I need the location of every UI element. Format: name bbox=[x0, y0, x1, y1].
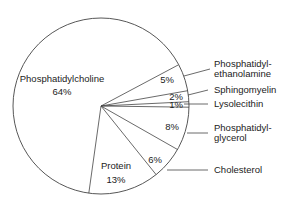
pct-phosphatidylglycerol: 8% bbox=[165, 121, 179, 132]
pct-phosphatidylcholine: 64% bbox=[52, 86, 72, 97]
pie-chart: Phosphatidylcholine 64% 5% 2% 1% 8% 6% P… bbox=[0, 0, 288, 209]
pct-phosphatidylethanolamine: 5% bbox=[160, 74, 174, 85]
pct-lysolecithin: 1% bbox=[169, 99, 183, 110]
callout-line-sm bbox=[188, 90, 208, 95]
pct-protein: 13% bbox=[106, 174, 126, 185]
label-protein: Protein bbox=[101, 160, 131, 171]
callout-line-pe bbox=[184, 69, 210, 76]
pct-cholesterol: 6% bbox=[148, 154, 162, 165]
label-pe-line2: ethanolamine bbox=[214, 68, 271, 79]
label-cholesterol: Cholesterol bbox=[214, 164, 262, 175]
label-sphingomyelin: Sphingomyelin bbox=[214, 84, 276, 95]
label-phosphatidylcholine: Phosphatidylcholine bbox=[20, 73, 105, 84]
label-pg-line2: glycerol bbox=[214, 132, 247, 143]
label-lysolecithin: Lysolecithin bbox=[214, 98, 263, 109]
